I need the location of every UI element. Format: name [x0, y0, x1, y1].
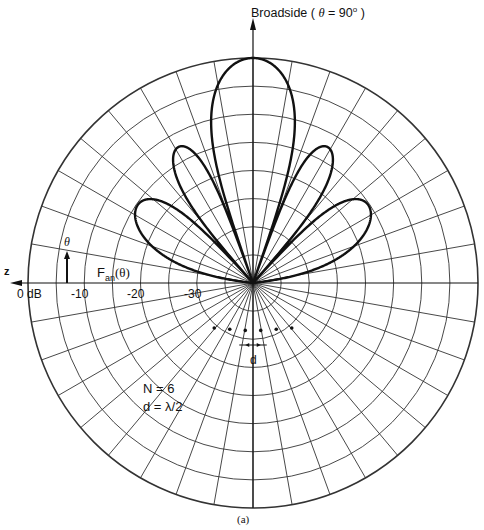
series-label-sub: an [105, 273, 115, 283]
z-axis-arrow-icon [10, 280, 22, 286]
title-prefix: Broadside ( [251, 6, 318, 20]
array-element-dot [290, 326, 294, 330]
tick-label-minus20: -20 [127, 288, 144, 300]
array-element-dot [274, 327, 278, 331]
tick-label-0db: 0 dB [17, 288, 42, 300]
title-mid: = 90 [325, 6, 353, 20]
tick-label-minus30: -30 [184, 288, 201, 300]
array-element-dot [228, 327, 232, 331]
array-element-dot [212, 326, 216, 330]
series-label-arg: (θ) [115, 265, 130, 280]
series-label-main: F [97, 265, 105, 280]
figure-caption: (a) [237, 514, 249, 525]
array-element-dot [259, 329, 263, 333]
axes [10, 18, 478, 508]
n-annotation: N = 6 [143, 382, 174, 395]
series-label: Fan(θ) [97, 266, 130, 283]
title-suffix: ) [357, 6, 365, 20]
array-element-dot [243, 329, 247, 333]
tick-label-minus10: -10 [71, 288, 88, 300]
polar-plot [0, 0, 484, 530]
d-annotation: d = λ/2 [143, 400, 182, 413]
z-axis-label: z [4, 266, 10, 277]
chart-title: Broadside ( θ = 90o ) [251, 6, 365, 20]
spacing-label: d [250, 354, 257, 366]
theta-label: θ [64, 236, 70, 248]
theta-arrow-icon [64, 251, 70, 259]
